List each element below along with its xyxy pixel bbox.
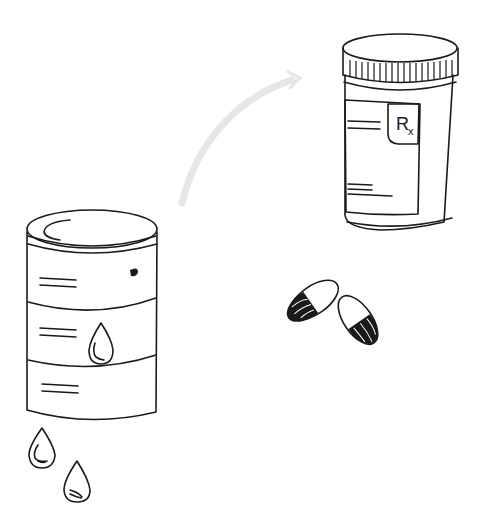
capsules [280,272,385,350]
oil-drops [29,428,90,502]
oil-barrel [27,210,157,420]
arrow-icon [182,72,300,203]
illustration: R x [0,0,483,531]
pill-bottle: R x [343,34,458,230]
rx-subscript: x [408,125,414,137]
